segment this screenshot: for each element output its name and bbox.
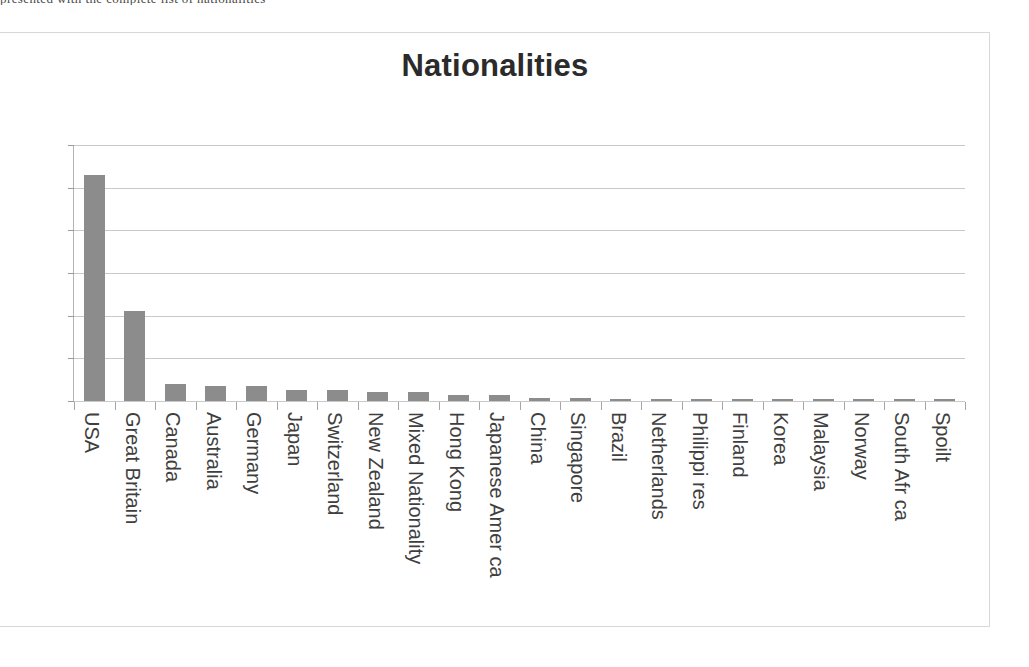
x-tick-mark — [763, 402, 764, 410]
x-tick-mark — [479, 402, 480, 410]
x-tick-label: Netherlands — [649, 412, 669, 520]
x-tick-mark — [236, 402, 237, 410]
bar — [408, 392, 429, 401]
gridline — [74, 316, 965, 317]
bar — [813, 399, 834, 401]
x-tick-mark — [74, 402, 75, 410]
gridline — [74, 188, 965, 189]
x-tick-label: Mixed Nationality — [406, 412, 426, 564]
x-tick-label: Japan — [285, 412, 305, 467]
x-tick-label: Spoilt — [933, 412, 953, 462]
bar — [853, 399, 874, 401]
bar — [165, 384, 186, 401]
y-tick-mark — [68, 188, 74, 189]
x-tick-mark — [560, 402, 561, 410]
bar — [205, 386, 226, 401]
bar — [732, 399, 753, 401]
bar — [84, 175, 105, 401]
bar — [286, 390, 307, 401]
x-tick-mark — [682, 402, 683, 410]
bar — [894, 399, 915, 401]
x-tick-mark — [196, 402, 197, 410]
x-tick-mark — [803, 402, 804, 410]
x-tick-mark — [155, 402, 156, 410]
x-tick-mark — [641, 402, 642, 410]
y-tick-mark — [68, 230, 74, 231]
y-tick-mark — [68, 145, 74, 146]
x-tick-label: Singapore — [568, 412, 588, 503]
gridline — [74, 230, 965, 231]
x-tick-label: China — [528, 412, 548, 464]
x-tick-mark — [398, 402, 399, 410]
bar — [367, 392, 388, 401]
x-tick-mark — [722, 402, 723, 410]
bar — [124, 311, 145, 401]
x-tick-label: Switzerland — [325, 412, 345, 515]
bar — [246, 386, 267, 401]
x-tick-label: USA — [82, 412, 102, 453]
x-tick-label: South Afr ca — [892, 412, 912, 521]
x-tick-label: Malaysia — [811, 412, 831, 491]
bar — [610, 399, 631, 401]
scanned-page-cut-text: presented with the complete list of nati… — [0, 0, 470, 5]
x-tick-label: Canada — [163, 412, 183, 482]
bar — [489, 395, 510, 401]
y-tick-mark — [68, 316, 74, 317]
bar — [772, 399, 793, 401]
gridline — [74, 145, 965, 146]
x-tick-mark — [115, 402, 116, 410]
plot-area — [74, 145, 965, 401]
x-tick-label: Japanese Amer ca — [487, 412, 507, 578]
x-tick-mark — [277, 402, 278, 410]
bar — [570, 398, 591, 401]
bar — [691, 399, 712, 401]
x-tick-mark — [439, 402, 440, 410]
bar — [934, 399, 955, 401]
x-tick-label: Philippi res — [690, 412, 710, 510]
x-tick-mark — [317, 402, 318, 410]
x-axis-labels: USAGreat BritainCanadaAustraliaGermanyJa… — [74, 412, 965, 612]
x-tick-label: Korea — [771, 412, 791, 465]
x-tick-mark — [358, 402, 359, 410]
x-tick-mark — [520, 402, 521, 410]
x-tick-label: Finland — [730, 412, 750, 478]
y-tick-mark — [68, 358, 74, 359]
bar — [448, 395, 469, 401]
y-tick-mark — [68, 273, 74, 274]
gridline — [74, 358, 965, 359]
chart-title: Nationalities — [0, 48, 990, 84]
x-tick-mark — [965, 402, 966, 410]
gridline — [74, 273, 965, 274]
x-tick-mark — [884, 402, 885, 410]
x-tick-mark — [601, 402, 602, 410]
x-tick-mark — [925, 402, 926, 410]
x-tick-mark — [844, 402, 845, 410]
x-tick-label: Germany — [244, 412, 264, 494]
bar — [651, 399, 672, 401]
bar — [529, 398, 550, 401]
x-tick-label: Norway — [852, 412, 872, 480]
bar — [327, 390, 348, 401]
x-tick-label: Hong Kong — [447, 412, 467, 512]
x-tick-label: New Zealand — [366, 412, 386, 530]
x-tick-label: Great Britain — [123, 412, 143, 524]
x-tick-label: Brazil — [609, 412, 629, 462]
x-tick-label: Australia — [204, 412, 224, 490]
